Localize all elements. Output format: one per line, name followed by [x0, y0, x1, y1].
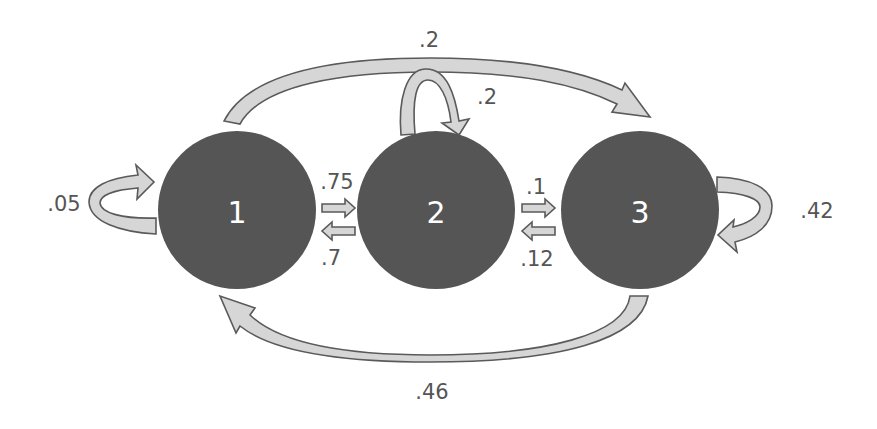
edge-3-to-1-arrow: [220, 296, 648, 362]
edge-3-to-1-label: .46: [415, 380, 448, 404]
edge-1-to-2-arrow: [322, 199, 355, 217]
edge-2-to-3-arrow: [522, 199, 555, 217]
edge-2-to-1-label: .7: [321, 246, 341, 270]
edge-1-to-3-label: .2: [419, 28, 439, 52]
edge-2-self-loop-arrow: [400, 69, 469, 135]
edge-2-to-3-label: .1: [526, 175, 546, 199]
node-2: 2: [357, 131, 515, 289]
edge-3-self-label: .42: [800, 199, 833, 223]
edge-2-self-label: .2: [477, 85, 497, 109]
edge-1-self-loop-arrow: [89, 165, 156, 234]
node-1-label: 1: [227, 195, 246, 230]
node-3: 3: [561, 131, 719, 289]
edge-3-self-loop-arrow: [717, 177, 772, 252]
edge-1-to-3-arrow: [224, 58, 650, 124]
node-2-label: 2: [426, 195, 445, 230]
edge-3-to-2-arrow: [522, 222, 555, 240]
edge-1-to-2-label: .75: [320, 170, 353, 194]
node-1: 1: [158, 131, 316, 289]
edge-2-to-1-arrow: [322, 222, 355, 240]
edge-3-to-2-label: .12: [520, 247, 553, 271]
edge-1-self-label: .05: [47, 192, 80, 216]
markov-diagram: 1 2 3 .05 .75 .7 .2 .2 .1 .12 .42 .46: [0, 0, 877, 429]
node-3-label: 3: [630, 195, 649, 230]
